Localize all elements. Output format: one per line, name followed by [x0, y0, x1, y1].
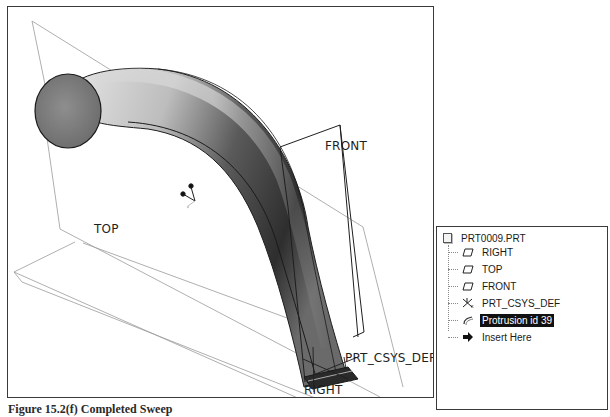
part-icon: [443, 233, 452, 243]
swept-part-model: [8, 7, 433, 397]
model-tree-panel[interactable]: PRT0009.PRT RIGHT TOP FRONT x: [436, 226, 608, 410]
front-plane-label: FRONT: [325, 139, 367, 153]
tree-root-label: PRT0009.PRT: [461, 233, 526, 244]
insert-arrow-icon: [461, 331, 475, 343]
tree-root-part[interactable]: PRT0009.PRT: [443, 231, 526, 245]
tree-item-insert-here[interactable]: Insert Here: [448, 330, 533, 344]
right-plane-label: RIGHT: [304, 383, 343, 397]
tree-item-top[interactable]: TOP: [448, 262, 504, 276]
top-plane-label: TOP: [94, 222, 119, 236]
graphics-viewport[interactable]: FRONT TOP RIGHT PRT_CSYS_DEF: [7, 6, 434, 398]
tube-end-cap: [35, 74, 101, 148]
tree-item-right[interactable]: RIGHT: [448, 245, 515, 259]
tree-item-protrusion[interactable]: Protrusion id 39: [448, 313, 554, 327]
sweep-protrusion-icon: [461, 314, 475, 326]
tree-item-prt-csys-def[interactable]: x PRT_CSYS_DEF: [448, 296, 562, 310]
tree-item-front[interactable]: FRONT: [448, 279, 518, 293]
csys-label: PRT_CSYS_DEF: [345, 351, 434, 365]
datum-plane-icon: [461, 246, 475, 258]
datum-plane-icon: [461, 280, 475, 292]
figure-caption: Figure 15.2(f) Completed Sweep: [8, 402, 172, 417]
coordinate-system-icon: x: [461, 297, 475, 309]
datum-plane-icon: [461, 263, 475, 275]
view-triad: [181, 184, 195, 208]
svg-text:x: x: [471, 303, 474, 309]
